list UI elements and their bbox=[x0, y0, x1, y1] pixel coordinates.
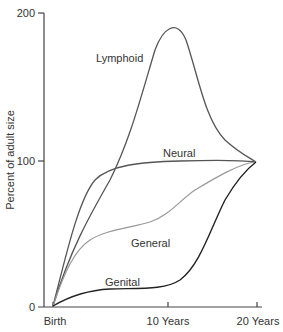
y-label-100: 100 bbox=[17, 155, 35, 167]
y-label-0: 0 bbox=[29, 301, 35, 313]
neural-curve bbox=[53, 160, 256, 306]
x-label-10-years: 10 Years bbox=[147, 315, 190, 327]
genital-curve bbox=[53, 162, 256, 306]
label-lymphoid: Lymphoid bbox=[96, 52, 143, 64]
general-curve bbox=[53, 162, 256, 306]
y-axis-title: Percent of adult size bbox=[4, 110, 16, 210]
growth-chart: 200 100 0 Birth 10 Years 20 Years Percen… bbox=[0, 0, 283, 332]
label-genital: Genital bbox=[105, 276, 140, 288]
label-neural: Neural bbox=[163, 147, 195, 159]
label-general: General bbox=[131, 237, 170, 249]
x-label-20-years: 20 Years bbox=[237, 315, 280, 327]
y-label-200: 200 bbox=[17, 7, 35, 19]
lymphoid-curve bbox=[53, 28, 256, 306]
x-label-birth: Birth bbox=[44, 315, 67, 327]
